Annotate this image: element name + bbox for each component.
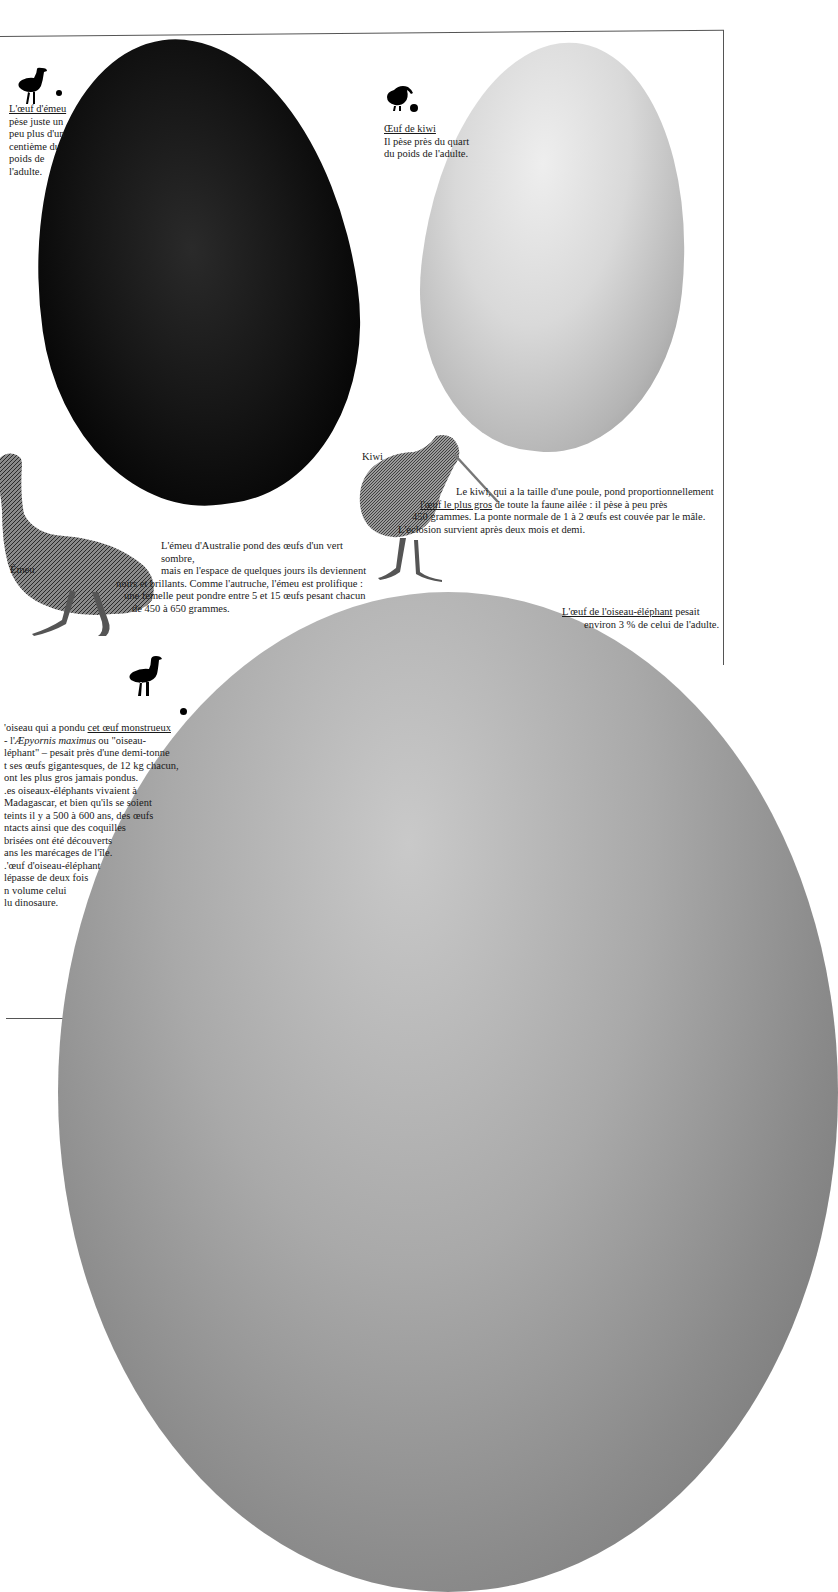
elephant-bird-silhouette-icon (126, 654, 166, 698)
emu-egg-caption: L'œuf d'émeu pèse juste un peu plus d'un… (9, 103, 94, 178)
elephant-bird-scale-dot (180, 708, 187, 715)
elephant-bird-egg-photo (58, 592, 838, 1592)
elephant-bird-egg-caption: L'œuf de l'oiseau-éléphant pesait enviro… (562, 606, 719, 631)
kiwi-egg-caption: Œuf de kiwi Il pèse près du quart du poi… (384, 123, 494, 161)
kiwi-largest-egg-link: l'œuf le plus gros (420, 499, 492, 510)
kiwi-paragraph: Le kiwi, qui a la taille d'une poule, po… (420, 486, 740, 536)
emu-egg-caption-link: L'œuf d'émeu (9, 103, 94, 116)
bottom-rule (6, 1018, 63, 1019)
kiwi-scale-dot (410, 104, 418, 112)
emu-scale-dot (56, 90, 62, 96)
emu-paragraph: L'émeu d'Australie pond des œufs d'un ve… (158, 540, 368, 615)
kiwi-egg-caption-link: Œuf de kiwi (384, 123, 494, 136)
kiwi-egg-photo (403, 29, 706, 464)
kiwi-label: Kiwi (362, 451, 383, 464)
emu-label: Émeu (10, 564, 35, 577)
emu-silhouette-icon (14, 66, 50, 106)
elephant-bird-egg-caption-link: L'œuf de l'oiseau-éléphant (562, 606, 673, 617)
right-rule (723, 30, 724, 665)
elephant-bird-paragraph: 'oiseau qui a pondu cet œuf monstrueux -… (4, 722, 174, 910)
top-rule (0, 30, 724, 37)
monstrous-egg-link: cet œuf monstrueux (88, 722, 171, 733)
